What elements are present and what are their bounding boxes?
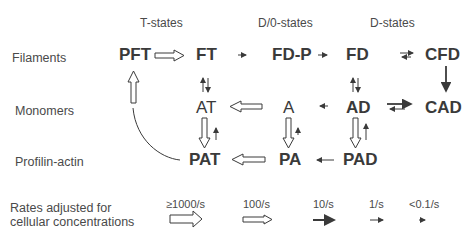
arrow-ad-to-pad-icon	[350, 118, 361, 148]
arrow-pat-to-pft-icon	[128, 71, 139, 103]
arrow-a-to-at-icon	[230, 101, 262, 112]
legend-arrow-1000-icon	[170, 211, 202, 227]
arrow-pa-to-pat-icon	[232, 154, 265, 165]
curve-pat-to-pft	[133, 108, 180, 160]
arrow-a-to-pa-icon	[283, 118, 294, 148]
legend-arrow-100-icon	[243, 215, 272, 224]
arrow-pft-to-ft-icon	[155, 50, 184, 61]
reaction-arrows	[0, 0, 471, 243]
arrow-at-to-pat-icon	[199, 118, 210, 148]
